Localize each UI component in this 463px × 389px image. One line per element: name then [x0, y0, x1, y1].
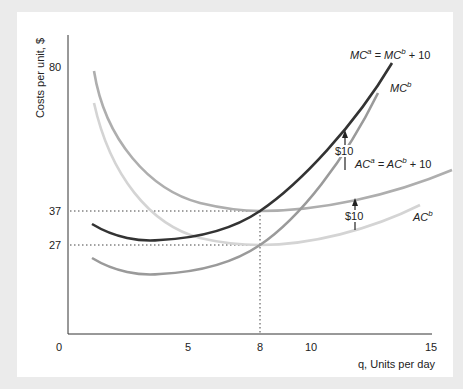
x-tick-8: 8: [257, 341, 263, 353]
legend-ac-a: ACa = ACb + 10: [355, 156, 431, 170]
x-tick-0: 0: [56, 341, 62, 353]
curve-ac-b: [94, 103, 420, 245]
delta-label-mc: $10: [334, 145, 354, 157]
legend-mc-b: MCb: [390, 80, 412, 94]
y-axis-label: Costs per unit, $: [34, 38, 46, 118]
y-tick-80: 80: [49, 61, 61, 73]
x-tick-15: 15: [425, 341, 437, 353]
y-tick-27: 27: [49, 239, 61, 251]
curve-mc-b: [92, 93, 378, 274]
x-tick-10: 10: [305, 341, 317, 353]
x-tick-5: 5: [185, 341, 191, 353]
x-axis-label: q, Units per day: [358, 358, 435, 370]
legend-ac-b: ACb: [413, 209, 433, 223]
delta-label-ac: $10: [344, 210, 364, 222]
y-tick-37: 37: [49, 205, 61, 217]
legend-mc-a: MCa = MCb + 10: [350, 47, 430, 61]
